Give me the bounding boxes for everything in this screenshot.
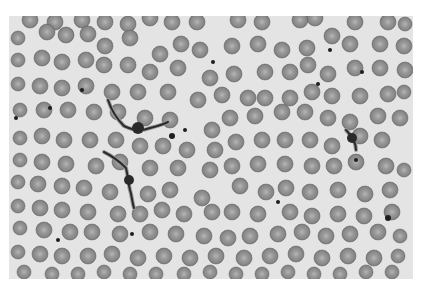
red-blood-cell xyxy=(78,52,94,68)
red-blood-cell xyxy=(226,66,242,82)
red-blood-cell xyxy=(132,138,148,154)
red-blood-cell xyxy=(282,64,298,80)
red-blood-cell xyxy=(302,132,318,148)
red-blood-cell xyxy=(372,36,388,52)
red-blood-cell xyxy=(162,182,178,198)
platelet xyxy=(354,158,358,162)
red-blood-cell xyxy=(370,224,386,240)
red-blood-cell xyxy=(54,248,70,264)
red-blood-cell xyxy=(307,267,321,281)
red-blood-cell xyxy=(304,208,320,224)
red-blood-cell xyxy=(398,17,412,31)
red-blood-cell xyxy=(366,250,382,266)
red-blood-cell xyxy=(189,14,205,30)
red-blood-cell xyxy=(86,104,102,120)
red-blood-cell xyxy=(164,14,180,30)
red-blood-cell xyxy=(397,163,411,177)
red-blood-cell xyxy=(108,132,124,148)
red-blood-cell xyxy=(396,38,412,54)
red-blood-cell xyxy=(192,42,208,58)
platelet xyxy=(56,238,60,242)
red-blood-cell xyxy=(203,265,217,279)
red-blood-cell xyxy=(288,246,304,262)
red-blood-cell xyxy=(262,248,278,264)
red-blood-cell xyxy=(392,110,408,126)
red-blood-cell xyxy=(281,265,295,279)
red-blood-cell xyxy=(255,267,269,281)
platelet xyxy=(211,60,215,64)
red-blood-cell xyxy=(11,77,25,91)
red-blood-cell xyxy=(196,228,212,244)
red-blood-cell xyxy=(120,16,136,32)
red-blood-cell xyxy=(36,102,52,118)
red-blood-cell xyxy=(60,102,76,118)
red-blood-cell xyxy=(254,132,270,148)
red-blood-cell xyxy=(154,202,170,218)
red-blood-cell xyxy=(17,265,31,279)
red-blood-cell xyxy=(397,85,411,99)
red-blood-cell xyxy=(202,162,218,178)
red-blood-cell xyxy=(82,132,98,148)
platelet xyxy=(183,128,187,132)
red-blood-cell xyxy=(170,160,186,176)
red-blood-cell xyxy=(302,184,318,200)
red-blood-cell xyxy=(380,86,396,102)
red-blood-cell xyxy=(130,250,146,266)
red-blood-cell xyxy=(142,64,158,80)
red-blood-cell xyxy=(13,221,27,235)
red-blood-cell xyxy=(54,80,70,96)
red-blood-cell xyxy=(11,53,25,67)
red-blood-cell xyxy=(250,156,266,172)
red-blood-cell xyxy=(242,228,258,244)
red-blood-cell xyxy=(380,14,396,30)
red-blood-cell xyxy=(11,199,25,213)
red-blood-cell xyxy=(80,248,96,264)
red-blood-cell xyxy=(352,88,368,104)
red-blood-cell xyxy=(160,84,176,100)
red-blood-cell xyxy=(324,138,340,154)
platelet xyxy=(360,70,364,74)
micrograph-figure xyxy=(0,0,423,288)
red-blood-cell xyxy=(357,186,373,202)
red-blood-cell xyxy=(32,246,48,262)
blood-smear-image xyxy=(0,0,423,288)
red-blood-cell xyxy=(314,250,330,266)
red-blood-cell xyxy=(80,26,96,42)
red-blood-cell xyxy=(247,108,263,124)
red-blood-cell xyxy=(372,60,388,76)
platelet xyxy=(48,106,52,110)
red-blood-cell xyxy=(32,78,48,94)
red-blood-cell xyxy=(140,186,156,202)
red-blood-cell xyxy=(282,90,298,106)
platelet xyxy=(14,116,18,120)
red-blood-cell xyxy=(202,70,218,86)
red-blood-cell xyxy=(318,228,334,244)
red-blood-cell xyxy=(340,248,356,264)
red-blood-cell xyxy=(330,182,346,198)
platelet xyxy=(276,200,280,204)
red-blood-cell xyxy=(254,14,270,30)
red-blood-cell xyxy=(156,248,172,264)
red-blood-cell xyxy=(177,267,191,281)
red-blood-cell xyxy=(204,204,220,220)
red-blood-cell xyxy=(294,224,310,240)
red-blood-cell xyxy=(168,226,184,242)
red-blood-cell xyxy=(282,204,298,220)
red-blood-cell xyxy=(222,110,238,126)
red-blood-cell xyxy=(324,28,340,44)
red-blood-cell xyxy=(34,128,50,144)
red-blood-cell xyxy=(304,158,320,174)
red-blood-cell xyxy=(224,38,240,54)
red-blood-cell xyxy=(96,57,112,73)
red-blood-cell xyxy=(232,178,248,194)
red-blood-cell xyxy=(36,222,52,238)
red-blood-cell xyxy=(250,206,266,222)
red-blood-cell xyxy=(382,182,398,198)
red-blood-cell xyxy=(39,24,55,40)
red-blood-cell xyxy=(333,267,347,281)
red-blood-cell xyxy=(122,30,138,46)
red-blood-cell xyxy=(297,104,313,120)
red-blood-cell xyxy=(207,142,223,158)
red-blood-cell xyxy=(204,122,220,138)
red-blood-cell xyxy=(54,202,70,218)
